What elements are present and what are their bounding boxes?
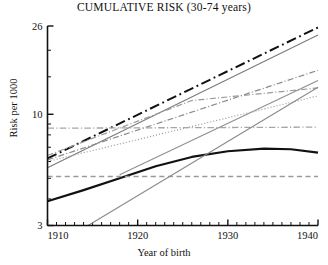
series-line: [48, 27, 319, 158]
series-line: [48, 70, 319, 160]
series-line: [48, 127, 319, 128]
axis-lines: [48, 26, 319, 226]
x-tick-label: 1920: [127, 230, 148, 241]
x-axis-title: Year of birth: [0, 247, 328, 258]
x-axis-title-text: Year of birth: [137, 247, 190, 258]
x-tick-label: 1940: [297, 230, 318, 241]
chart-plot-svg: 191019201930194031026: [0, 0, 328, 265]
y-tick-label: 26: [32, 21, 43, 32]
x-tick-label: 1910: [48, 230, 69, 241]
chart-container: CUMULATIVE RISK (30-74 years) 1910192019…: [0, 0, 328, 265]
axis-minor-ticks: [48, 50, 309, 225]
y-axis-title: Risk per 1000: [8, 58, 24, 158]
y-tick-label: 3: [37, 220, 42, 231]
series-line: [48, 88, 319, 156]
series-line: [48, 149, 319, 202]
data-series-group: [48, 27, 319, 225]
x-tick-label: 1930: [217, 230, 238, 241]
y-tick-label: 10: [32, 109, 43, 120]
axis-major-ticks: [48, 26, 319, 226]
y-axis-title-text: Risk per 1000: [8, 79, 19, 138]
